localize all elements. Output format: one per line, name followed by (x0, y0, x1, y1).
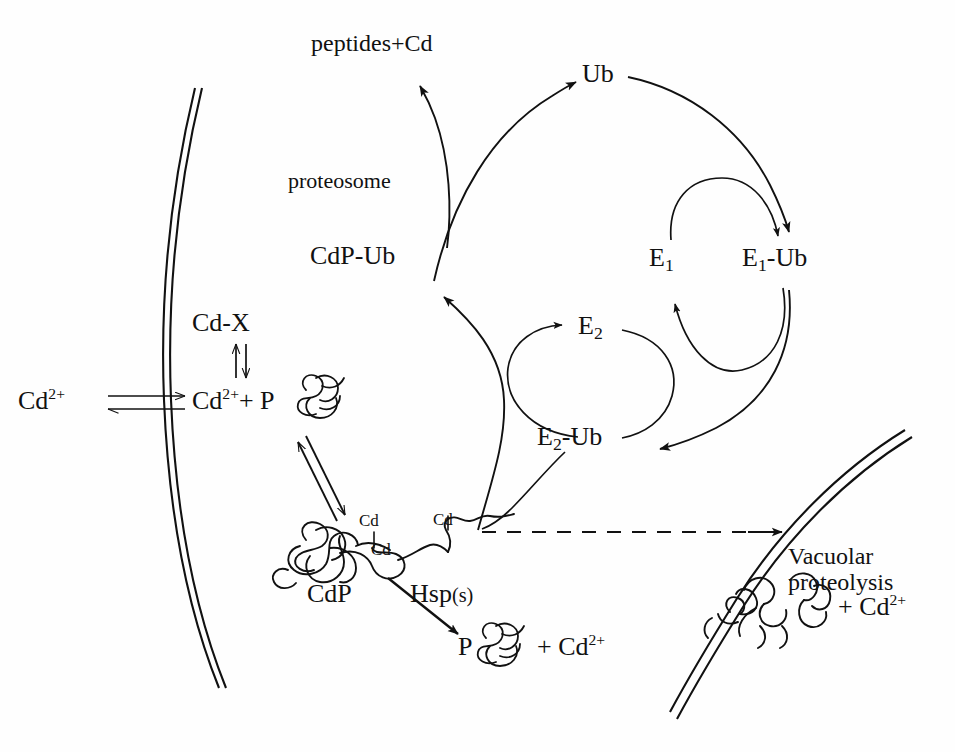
label-ub-text: Ub (582, 59, 614, 88)
label-e1-ub-base: E (742, 243, 758, 272)
folded-protein-glyph-upper (298, 375, 344, 418)
label-peptides-text: peptides (311, 30, 391, 56)
label-hsp: Hsp(s) (410, 581, 473, 607)
label-e2-ub-subscript: 2 (553, 434, 562, 454)
label-cd-extracellular: Cd2+ (18, 386, 65, 414)
label-e1-ub-subscript: 1 (758, 255, 767, 275)
label-hsp-paren: (s) (452, 584, 473, 606)
label-cd-out-base: Cd (18, 386, 48, 415)
label-cd-out-charge: 2+ (48, 385, 65, 402)
label-e1-ub-tail: -Ub (767, 243, 807, 272)
edge-e1ub-to-e1-lower (675, 288, 785, 371)
label-cd-chain-3: Cd (433, 511, 453, 528)
edge-cdpub-to-peptides (420, 86, 449, 248)
folded-protein-glyph-lower (478, 623, 524, 666)
label-vacuolar-proteolysis-text: Vacuolar proteolysis (788, 543, 893, 595)
label-vac-plus-cd-base: + Cd (838, 592, 890, 621)
label-cd-x: Cd-X (192, 310, 250, 336)
label-e2-base: E (578, 311, 594, 340)
label-e1-base: E (649, 243, 665, 272)
label-e2-ub-tail: -Ub (562, 422, 602, 451)
label-p-released: P (458, 634, 472, 660)
label-cd-in-base: Cd (192, 386, 222, 415)
label-ub: Ub (582, 61, 614, 87)
label-peptides-cd-suffix: +Cd (391, 30, 433, 56)
label-e1: E1 (649, 245, 674, 275)
label-vacuole-plus-cd: + Cd2+ (838, 592, 906, 620)
edge-cdp-refolding-equilibrium (298, 436, 345, 521)
label-cd-in-charge: 2+ (222, 385, 239, 402)
edge-e2-to-e2ub (622, 330, 674, 438)
label-proteosome: proteosome (288, 170, 391, 192)
label-cd-intracellular: Cd2++ P (192, 386, 275, 414)
label-e2-subscript: 2 (594, 323, 603, 343)
pathway-svg-canvas (0, 0, 955, 752)
label-hsp-base: Hsp (410, 579, 452, 608)
label-p-released-text: P (458, 632, 472, 661)
edge-cd-transport-equilibrium (108, 396, 185, 409)
label-vacuolar-proteolysis: Vacuolar proteolysis (788, 518, 893, 596)
label-cd-chain-2: Cd (371, 541, 391, 558)
label-plus-cd-base: + Cd (537, 632, 589, 661)
label-plus-cd-charge: 2+ (589, 631, 606, 648)
label-cdp: CdP (307, 581, 352, 607)
label-e2-ub-base: E (537, 422, 553, 451)
edge-e1-to-e1ub-upper (671, 178, 778, 240)
label-e1-subscript: 1 (665, 255, 674, 275)
label-cdp-ub: CdP-Ub (310, 243, 395, 269)
label-vac-plus-cd-charge: 2+ (890, 591, 907, 608)
edge-ub-to-e1ub (628, 77, 789, 232)
label-cd-chain-2-text: Cd (371, 540, 391, 559)
label-e2: E2 (578, 313, 603, 343)
label-cd-chain-3-text: Cd (433, 510, 453, 529)
label-cd-chain-1: Cd (359, 512, 379, 529)
label-cd-in-plus-p: + P (239, 386, 275, 415)
label-cdp-ub-text: CdP-Ub (310, 241, 395, 270)
label-e1-ub: E1-Ub (742, 245, 807, 275)
edge-cdpub-to-ub (434, 82, 576, 281)
edge-cdp-to-cdpub (444, 297, 504, 530)
label-cd-x-text: Cd-X (192, 308, 250, 337)
label-cdp-text: CdP (307, 579, 352, 608)
edge-cdx-equilibrium (236, 344, 246, 378)
label-cd-chain-1-text: Cd (359, 511, 379, 530)
label-e2-ub: E2-Ub (537, 424, 602, 454)
label-peptides-cd: peptides+Cd (311, 31, 433, 55)
pathway-diagram: peptides+Cd Ub proteosome CdP-Ub E1 E1-U… (0, 0, 955, 752)
edge-e2ub-to-e2 (508, 325, 578, 437)
label-p-released-plus-cd: + Cd2+ (537, 632, 605, 660)
label-proteosome-text: proteosome (288, 168, 391, 193)
